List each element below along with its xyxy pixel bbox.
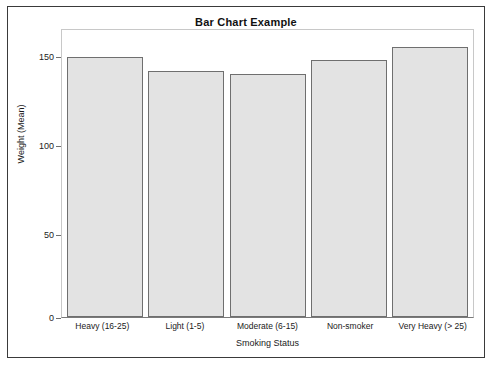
bar-series xyxy=(62,30,473,317)
x-label-non-smoker: Non-smoker xyxy=(309,321,392,331)
x-label-very-heavy: Very Heavy (> 25) xyxy=(391,321,474,331)
x-axis-title: Smoking Status xyxy=(61,338,474,348)
y-tick-50: 50 xyxy=(11,229,61,241)
y-axis: 150 100 50 0 Weight (Mean) xyxy=(8,7,61,318)
y-tick-0: 0 xyxy=(11,312,61,324)
chart-title: Bar Chart Example xyxy=(8,16,484,28)
y-axis-title: Weight (Mean) xyxy=(16,64,26,204)
y-tick-150: 150 xyxy=(11,51,61,63)
x-label-heavy: Heavy (16-25) xyxy=(61,321,144,331)
bar-slot xyxy=(390,30,471,317)
x-label-moderate: Moderate (6-15) xyxy=(226,321,309,331)
bar-slot xyxy=(227,30,308,317)
bar-very-heavy[interactable] xyxy=(392,47,468,317)
bar-non-smoker[interactable] xyxy=(311,60,387,317)
bar-heavy[interactable] xyxy=(67,57,143,317)
bar-slot xyxy=(308,30,389,317)
plot-area xyxy=(61,29,474,318)
bar-slot xyxy=(64,30,145,317)
bar-moderate[interactable] xyxy=(230,74,306,317)
y-tickmark xyxy=(56,318,61,319)
x-axis-labels: Heavy (16-25) Light (1-5) Moderate (6-15… xyxy=(61,321,474,331)
bar-light[interactable] xyxy=(148,71,224,317)
bar-slot xyxy=(145,30,226,317)
chart-window: Bar Chart Example 150 100 50 0 Weight (M… xyxy=(7,6,485,358)
x-label-light: Light (1-5) xyxy=(144,321,227,331)
